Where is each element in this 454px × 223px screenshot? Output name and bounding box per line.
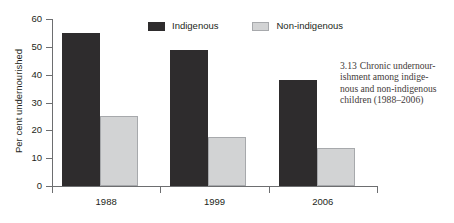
y-tick-label-0: 0	[16, 181, 42, 191]
caption-line-1: 3.13Chronic undernour-	[340, 60, 450, 71]
x-tick-3	[377, 187, 378, 193]
caption-line-3: nous and non-indigenous	[340, 83, 450, 94]
y-tick-label-50: 50	[16, 42, 42, 52]
figure-caption: 3.13Chronic undernour- ishment among ind…	[340, 60, 450, 106]
bar-non-indigenous-1999	[208, 137, 246, 186]
x-axis-label-1988: 1988	[76, 196, 136, 207]
y-tick-label-30: 30	[16, 98, 42, 108]
x-tick-2	[269, 187, 270, 193]
x-axis-label-1999: 1999	[185, 196, 245, 207]
caption-line-2: ishment among indige-	[340, 71, 450, 82]
y-tick-label-60: 60	[16, 14, 42, 24]
caption-line-4: children (1988–2006)	[340, 94, 450, 105]
figure-chronic-undernourishment: Indigenous Non-indigenous Per cent under…	[0, 0, 454, 223]
bar-indigenous-2006	[279, 80, 317, 186]
bar-non-indigenous-2006	[317, 148, 355, 186]
caption-text-1: Chronic undernour-	[360, 60, 436, 71]
plot-area	[52, 19, 377, 186]
bar-non-indigenous-1988	[100, 116, 138, 186]
x-tick-1	[160, 187, 161, 193]
y-tick-label-20: 20	[16, 125, 42, 135]
x-tick-0	[52, 187, 53, 193]
x-axis-label-2006: 2006	[293, 196, 353, 207]
y-tick-label-10: 10	[16, 153, 42, 163]
y-tick-label-40: 40	[16, 70, 42, 80]
x-axis-line	[52, 186, 378, 187]
bar-indigenous-1988	[62, 33, 100, 186]
bar-indigenous-1999	[170, 50, 208, 186]
caption-number: 3.13	[340, 60, 357, 71]
